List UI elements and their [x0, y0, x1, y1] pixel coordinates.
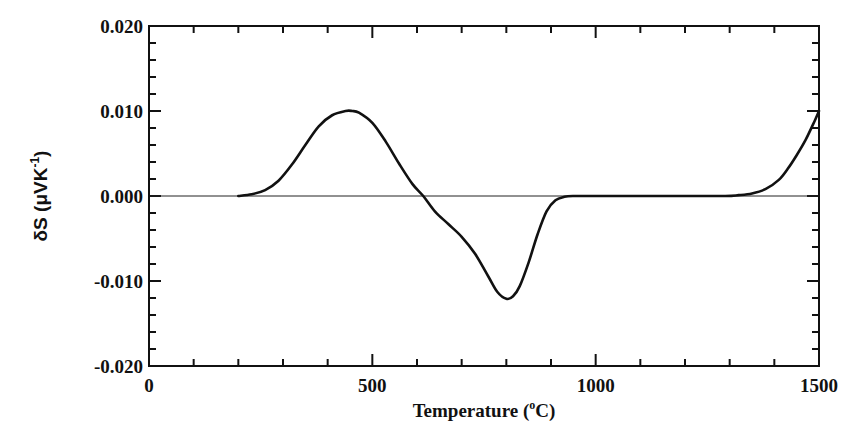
x-tick-label: 0: [144, 375, 154, 396]
y-tick-label: -0.010: [94, 271, 143, 292]
x-tick-label: 500: [358, 375, 387, 396]
x-tick-label: 1500: [800, 375, 838, 396]
x-tick-labels: 050010001500: [144, 375, 838, 396]
chart: 050010001500 -0.020-0.0100.0000.0100.020…: [0, 0, 864, 444]
data-line: [238, 111, 819, 299]
y-tick-label: 0.010: [100, 101, 143, 122]
y-tick-label: 0.020: [100, 16, 143, 37]
x-axis-label: Temperature (oC): [413, 398, 556, 422]
y-tick-label: -0.020: [94, 356, 143, 377]
x-tick-label: 1000: [577, 375, 615, 396]
y-tick-labels: -0.020-0.0100.0000.0100.020: [94, 16, 143, 377]
y-tick-label: 0.000: [100, 186, 143, 207]
y-axis-label: δS (μVK-1): [28, 151, 51, 242]
